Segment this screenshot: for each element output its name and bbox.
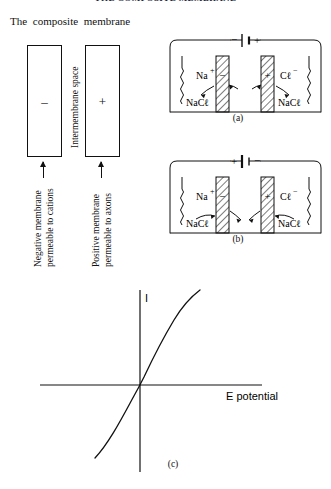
negative-membrane-sign: – — [28, 95, 61, 108]
iv-curve-path — [95, 290, 200, 458]
positive-membrane-caption-line2: permeable to axons — [103, 193, 113, 267]
cell-b-left-solution: NaCℓ — [186, 218, 209, 229]
cell-b-left-electrode — [181, 189, 184, 225]
negative-membrane-caption-line1: Negative membrane — [33, 190, 43, 267]
cell-a-positive-membrane — [261, 56, 274, 112]
intermembrane-space-label: Intermembrane space — [70, 67, 80, 149]
negative-membrane-arrow — [43, 162, 44, 178]
negative-membrane-caption-line2: permeable to cations — [45, 188, 55, 267]
section-title: The composite membrane — [10, 15, 130, 27]
cell-a-right-solution: NaCℓ — [278, 97, 301, 108]
positive-membrane-caption-line1: Positive membrane — [91, 194, 101, 267]
cell-diagram-a: − + – + Na + Cℓ − — [160, 34, 331, 116]
cell-a-right-ion: Cℓ — [280, 70, 291, 81]
cell-a-negative-membrane — [216, 56, 229, 112]
cell-b-right-membrane-sign: + — [264, 190, 270, 202]
cell-a-battery-negative: − — [231, 34, 237, 45]
cell-a-left-ion: Na — [196, 70, 208, 81]
cell-b-right-ion: Cℓ — [280, 191, 291, 202]
cell-b-left-membrane-sign: – — [219, 190, 226, 201]
cell-a-right-ion-charge: − — [293, 66, 298, 75]
cell-b-positive-membrane — [261, 177, 274, 233]
running-header: THE COMPOSITE MEMBRANE — [0, 0, 331, 5]
cell-a-caption: (a) — [218, 113, 258, 123]
negative-membrane-box: – — [27, 45, 62, 157]
cell-b-battery-negative: − — [254, 155, 260, 166]
positive-membrane-sign: + — [86, 95, 119, 108]
cell-a-left-membrane-sign: – — [219, 69, 226, 80]
cell-b-svg: + − – + Na + Cℓ − — [160, 155, 331, 237]
positive-membrane-arrow — [101, 162, 102, 178]
cell-a-right-membrane-sign: + — [264, 69, 270, 81]
cell-a-svg: − + – + Na + Cℓ − — [160, 34, 331, 116]
cell-b-caption: (b) — [218, 234, 258, 244]
cell-b-left-ion: Na — [196, 191, 208, 202]
cell-diagram-b: + − – + Na + Cℓ − — [160, 155, 331, 237]
cell-a-battery-positive: + — [254, 34, 260, 46]
x-axis-label: E potential — [226, 390, 278, 402]
cell-a-left-solution: NaCℓ — [186, 97, 209, 108]
cell-b-right-ion-charge: − — [293, 187, 298, 196]
positive-membrane-box: + — [85, 45, 120, 157]
cell-b-battery-positive: + — [231, 155, 237, 167]
iv-curve-chart: I E potential — [40, 272, 331, 472]
cell-a-left-ion-charge: + — [210, 66, 215, 75]
cell-b-right-electrode — [308, 189, 311, 225]
cell-b-left-ion-charge: + — [210, 187, 215, 196]
cell-b-negative-membrane — [216, 177, 229, 233]
cell-b-right-solution: NaCℓ — [278, 218, 301, 229]
figure-page: THE COMPOSITE MEMBRANE The composite mem… — [0, 0, 331, 489]
y-axis-label: I — [145, 292, 148, 304]
iv-curve-svg: I E potential — [40, 272, 331, 472]
graph-c-caption: (c) — [153, 459, 193, 469]
cell-a-right-electrode — [308, 68, 311, 104]
cell-a-left-electrode — [181, 68, 184, 104]
